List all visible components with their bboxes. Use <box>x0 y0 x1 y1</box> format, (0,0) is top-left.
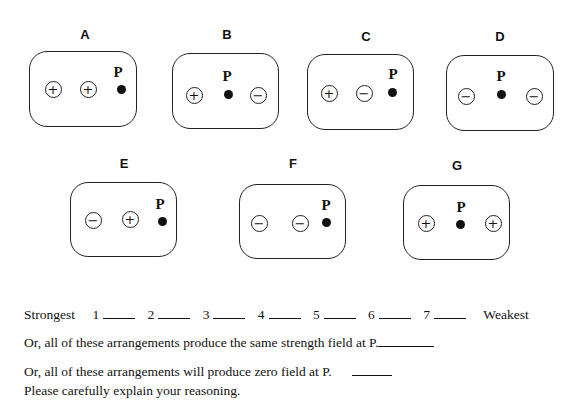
panel-label: E <box>114 156 134 171</box>
charge-icon: + <box>485 215 502 232</box>
charge-icon: − <box>85 212 102 229</box>
rank-number: 4 <box>258 307 265 322</box>
point-p-dot <box>158 217 167 226</box>
charge-icon: − <box>356 85 373 102</box>
point-label: P <box>494 68 508 85</box>
point-p-dot <box>497 90 506 99</box>
weakest-label: Weakest <box>483 307 528 322</box>
charge-icon: + <box>122 211 139 228</box>
rank-blank-1[interactable] <box>103 317 135 319</box>
point-label: P <box>386 66 400 83</box>
point-label: P <box>111 64 125 81</box>
panel-label: D <box>490 29 510 44</box>
rank-number: 3 <box>203 307 210 322</box>
rank-number: 7 <box>423 307 430 322</box>
rank-number: 2 <box>148 307 155 322</box>
charge-icon: − <box>526 88 543 105</box>
point-p-dot <box>224 90 233 99</box>
charge-icon: − <box>292 215 309 232</box>
charge-icon: − <box>458 88 475 105</box>
zero-field-blank[interactable] <box>352 374 392 376</box>
point-p-dot <box>456 220 465 229</box>
point-label: P <box>153 196 167 213</box>
same-strength-text: Or, all of these arrangements produce th… <box>24 335 378 350</box>
rank-blank-7[interactable] <box>434 317 466 319</box>
charge-icon: + <box>80 81 97 98</box>
charge-icon: − <box>250 87 267 104</box>
rank-blank-5[interactable] <box>324 317 356 319</box>
same-strength-row: Or, all of these arrangements produce th… <box>24 335 434 351</box>
rank-number: 6 <box>368 307 375 322</box>
rank-blank-6[interactable] <box>379 317 411 319</box>
point-p-dot <box>322 218 331 227</box>
explain-reasoning: Please carefully explain your reasoning. <box>24 383 240 399</box>
zero-field-text: Or, all of these arrangements will produ… <box>24 364 332 379</box>
panel-label: F <box>283 156 303 171</box>
point-p-dot <box>117 85 126 94</box>
point-label: P <box>319 197 333 214</box>
rank-blank-2[interactable] <box>158 317 190 319</box>
rank-number: 5 <box>313 307 320 322</box>
panel-label: B <box>217 27 237 42</box>
zero-field-row: Or, all of these arrangements will produ… <box>24 364 392 380</box>
charge-icon: + <box>418 215 435 232</box>
strongest-label: Strongest <box>24 307 75 322</box>
charge-icon: + <box>186 87 203 104</box>
rank-blank-3[interactable] <box>213 317 245 319</box>
panel-label: A <box>75 27 95 42</box>
charge-icon: − <box>251 215 268 232</box>
same-strength-blank[interactable] <box>378 345 434 347</box>
rank-number: 1 <box>92 307 99 322</box>
point-p-dot <box>388 88 397 97</box>
panel-label: G <box>447 158 467 173</box>
charge-icon: + <box>45 81 62 98</box>
point-label: P <box>220 68 234 85</box>
charge-icon: + <box>321 85 338 102</box>
rank-blank-4[interactable] <box>269 317 301 319</box>
point-label: P <box>454 199 468 216</box>
ranking-row: Strongest 1 2 3 4 5 6 7 Weakest <box>24 307 529 323</box>
panel-label: C <box>356 29 376 44</box>
